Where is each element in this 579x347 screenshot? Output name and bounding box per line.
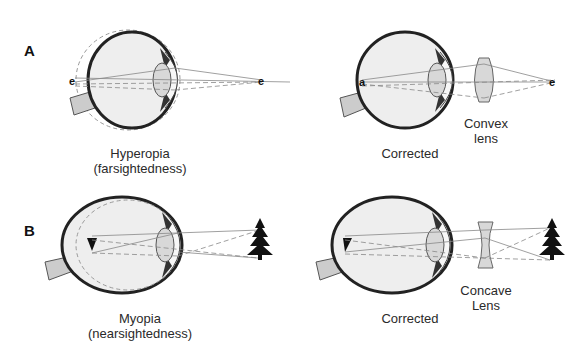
hyperopia-corrected-eye: a e [340,32,555,128]
tree-icon [247,218,273,260]
lens-label-line1: Concave [456,283,516,298]
myopia-caption: Myopia (nearsightedness) [80,311,200,341]
image-letter: e [69,75,75,87]
object-letter: e [258,75,264,87]
panel-letter-b: B [24,222,35,239]
hyperopia-caption: Hyperopia (farsightedness) [80,146,200,176]
svg-text:a: a [359,76,366,88]
concave-lens [478,222,493,268]
panel-letter-a: A [24,42,35,59]
convex-lens-label: Convex lens [456,116,516,146]
lens-label-line1: Convex [456,116,516,131]
lens-label-line2: lens [456,131,516,146]
concave-lens-label: Concave Lens [456,283,516,313]
myopia-eye [45,197,273,293]
caption-line1: Hyperopia [80,146,200,161]
myopia-corrected-eye [316,197,565,293]
caption-line1: Myopia [80,311,200,326]
svg-text:e: e [549,76,555,88]
caption-line2: (nearsightedness) [80,326,200,341]
corrected-caption-b: Corrected [355,311,465,326]
caption-line2: (farsightedness) [80,161,200,176]
lens-label-line2: Lens [456,298,516,313]
hyperopia-eye: e e [69,30,290,130]
corrected-caption-a: Corrected [355,146,465,161]
